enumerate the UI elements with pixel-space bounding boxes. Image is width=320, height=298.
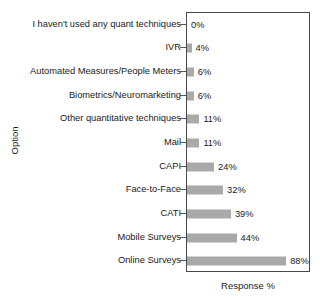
bar (187, 115, 199, 124)
bar (187, 186, 223, 195)
category-label: IVR (18, 42, 181, 53)
bar-value-label: 39% (235, 209, 254, 219)
bar (187, 44, 192, 53)
bar-value-label: 6% (198, 67, 211, 77)
category-label: Face-to-Face (18, 184, 181, 195)
x-axis-title: Response % (186, 280, 310, 291)
category-label: Other quantitative techniques (18, 113, 181, 124)
bar (187, 209, 231, 218)
category-label: Mail (18, 137, 181, 148)
bar-value-label: 24% (218, 162, 237, 172)
category-label: CAPI (18, 160, 181, 171)
bar-chart: Option I haven't used any quant techniqu… (0, 0, 320, 298)
bar (187, 91, 194, 100)
bar-value-label: 0% (191, 20, 204, 30)
bar-value-label: 6% (198, 91, 211, 101)
bar-value-label: 44% (241, 233, 260, 243)
category-label: Online Surveys (18, 255, 181, 266)
bar-value-label: 88% (290, 256, 309, 266)
category-label: Automated Measures/People Meters (18, 66, 181, 77)
bar-value-label: 4% (196, 43, 209, 53)
bar (187, 233, 237, 242)
bar-value-label: 11% (203, 114, 221, 124)
bar (187, 139, 199, 148)
category-label: Mobile Surveys (18, 231, 181, 242)
category-label: Biometrics/Neuromarketing (18, 89, 181, 100)
bar (187, 68, 194, 77)
bars-layer: 0%4%6%6%11%11%24%32%39%44%88% (187, 13, 309, 271)
category-label: CATI (18, 208, 181, 219)
chart-title (60, 0, 280, 1)
bar-value-label: 11% (203, 138, 221, 148)
category-label: I haven't used any quant techniques (18, 19, 181, 30)
plot-area: 0%4%6%6%11%11%24%32%39%44%88% (186, 12, 310, 272)
bar-value-label: 32% (227, 185, 246, 195)
category-axis-labels: I haven't used any quant techniquesIVRAu… (18, 12, 181, 272)
bar (187, 162, 214, 171)
bar (187, 257, 286, 266)
